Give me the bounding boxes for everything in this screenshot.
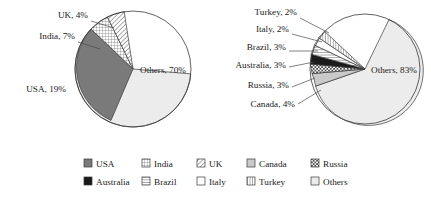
label-right-brazil: Brazil, 3% bbox=[247, 42, 287, 52]
label-right-australia: Australia, 3% bbox=[235, 60, 286, 70]
legend-swatch-others bbox=[311, 177, 319, 185]
label-right-turkey: Turkey, 2% bbox=[255, 7, 298, 17]
label-right-others: Others, 83% bbox=[371, 65, 417, 75]
label-right-russia: Russia, 3% bbox=[248, 80, 290, 90]
legend-swatch-india bbox=[142, 159, 150, 167]
legend-swatch-usa bbox=[84, 159, 92, 167]
legend-item-australia[interactable]: Australia bbox=[84, 177, 130, 187]
legend-item-brazil[interactable]: Brazil bbox=[142, 177, 177, 187]
label-right-italy: Italy, 2% bbox=[256, 24, 289, 34]
legend-item-canada[interactable]: Canada bbox=[247, 159, 287, 169]
legend-swatch-brazil bbox=[142, 177, 150, 185]
legend-label-brazil: Brazil bbox=[154, 177, 177, 187]
legend-item-turkey[interactable]: Turkey bbox=[247, 177, 286, 187]
legend-label-australia: Australia bbox=[96, 177, 130, 187]
label-left-india: India, 7% bbox=[39, 31, 75, 41]
label-left-usa: USA, 19% bbox=[26, 84, 66, 94]
legend-swatch-russia bbox=[311, 159, 319, 167]
legend-label-uk: UK bbox=[209, 159, 223, 169]
legend-label-turkey: Turkey bbox=[259, 177, 286, 187]
legend-item-russia[interactable]: Russia bbox=[311, 159, 348, 169]
legend-item-others[interactable]: Others bbox=[311, 177, 348, 187]
legend-label-usa: USA bbox=[96, 159, 115, 169]
label-left-uk: UK, 4% bbox=[58, 10, 88, 20]
legend-swatch-turkey bbox=[247, 177, 255, 185]
legend-label-canada: Canada bbox=[259, 159, 287, 169]
legend-swatch-canada bbox=[247, 159, 255, 167]
legend-label-others: Others bbox=[323, 177, 348, 187]
legend-item-usa[interactable]: USA bbox=[84, 159, 115, 169]
legend-swatch-uk bbox=[197, 159, 205, 167]
label-right-canada: Canada, 4% bbox=[251, 99, 296, 109]
label-left-others: Others, 70% bbox=[140, 65, 186, 75]
legend-swatch-italy bbox=[197, 177, 205, 185]
legend-label-italy: Italy bbox=[209, 177, 226, 187]
legend-item-uk[interactable]: UK bbox=[197, 159, 223, 169]
legend-label-russia: Russia bbox=[323, 159, 348, 169]
legend-label-india: India bbox=[154, 159, 173, 169]
legend-swatch-australia bbox=[84, 177, 92, 185]
pie-chart-figure: UK, 4% India, 7% USA, 19% Others, 70% Tu… bbox=[0, 0, 431, 201]
legend-item-india[interactable]: India bbox=[142, 159, 173, 169]
legend-item-italy[interactable]: Italy bbox=[197, 177, 226, 187]
